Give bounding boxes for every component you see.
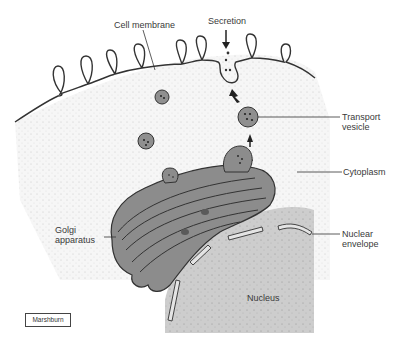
label-transport-vesicle-line1: Transport xyxy=(342,112,380,122)
label-cytoplasm: Cytoplasm xyxy=(343,167,386,177)
label-golgi-apparatus: Golgi apparatus xyxy=(55,225,95,245)
artist-credit: Marshburn xyxy=(25,313,71,327)
label-cell-membrane: Cell membrane xyxy=(114,20,175,30)
label-nuclear-envelope: Nuclear envelope xyxy=(342,229,379,249)
cell-diagram xyxy=(0,0,400,344)
label-nucleus: Nucleus xyxy=(247,293,280,303)
label-nuclear-envelope-line1: Nuclear xyxy=(342,229,379,239)
label-transport-vesicle: Transport vesicle xyxy=(342,112,380,132)
label-golgi-line1: Golgi xyxy=(55,225,95,235)
vesicle xyxy=(155,90,169,104)
transport-vesicle xyxy=(238,107,258,127)
label-golgi-line2: apparatus xyxy=(55,235,95,245)
label-transport-vesicle-line2: vesicle xyxy=(342,122,380,132)
label-secretion: Secretion xyxy=(208,16,246,26)
label-nuclear-envelope-line2: envelope xyxy=(342,239,379,249)
vesicle xyxy=(138,133,154,149)
